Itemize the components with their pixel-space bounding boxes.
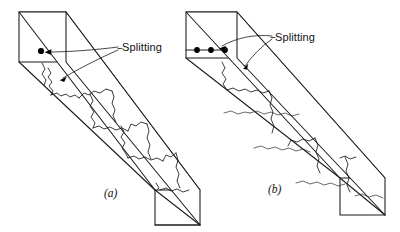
figure-drawing <box>0 0 400 232</box>
panel-a-load-point <box>38 48 44 54</box>
panel-b-crack-transverse-1b <box>224 111 250 114</box>
panel-b-crack-transverse-2 <box>254 146 310 152</box>
panel-a-crack-near-load <box>42 63 46 85</box>
panel-b-caption: (b) <box>268 183 281 195</box>
panel-b-load-point-2 <box>208 47 214 53</box>
panel-b-crack-transverse-3 <box>296 181 345 186</box>
panel-b-crack-1 <box>222 62 227 90</box>
splitting-failure-figure: Splitting Splitting (a) (b) <box>0 0 400 232</box>
panel-b-splitting-label: Splitting <box>275 31 315 43</box>
panel-a-splitting-label: Splitting <box>122 41 162 53</box>
panel-a-caption: (a) <box>104 187 117 199</box>
panel-b-load-point-1 <box>194 47 200 53</box>
